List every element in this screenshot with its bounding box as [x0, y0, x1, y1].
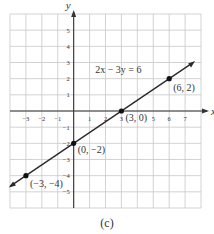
data-point [167, 76, 172, 81]
data-point [71, 141, 76, 146]
y-tick-label: 2 [66, 75, 69, 82]
equation-label: 2x − 3y = 6 [95, 64, 141, 75]
y-tick-label: −3 [63, 156, 70, 163]
x-tick-label: 1 [88, 115, 91, 122]
y-axis-arrow-icon [71, 10, 76, 17]
point-label: (3, 0) [125, 112, 147, 124]
y-tick-label: −4 [63, 172, 71, 179]
y-tick-label: −1 [63, 124, 70, 131]
x-tick-label: 5 [152, 115, 155, 122]
y-axis-label: y [65, 0, 71, 11]
x-axis-arrow-icon [202, 109, 209, 114]
point-label: (0, −2) [78, 144, 105, 156]
y-tick-label: 5 [66, 27, 69, 34]
point-labels: (−3, −4)(0, −2)(3, 0)(6, 2)2x − 3y = 6 [30, 64, 195, 190]
point-label: (6, 2) [173, 82, 195, 94]
x-tick-label: −2 [38, 115, 45, 122]
figure-caption: (c) [0, 216, 214, 231]
x-tick-label: 3 [120, 115, 123, 122]
line-arrow-icon [188, 61, 195, 68]
x-tick-label: −3 [22, 115, 29, 122]
x-tick-label: 6 [168, 115, 172, 122]
data-point [119, 108, 124, 113]
y-tick-label: 3 [66, 59, 69, 66]
y-tick-label: −5 [63, 188, 70, 195]
line-2x-3y-6 [10, 64, 191, 187]
data-series [9, 61, 195, 187]
x-tick-label: −1 [54, 115, 61, 122]
x-tick-label: 7 [183, 115, 187, 122]
point-label: (−3, −4) [30, 178, 63, 190]
y-tick-label: −2 [63, 140, 70, 147]
data-point [23, 173, 28, 178]
x-axis-label: x [210, 105, 214, 117]
y-tick-label: 1 [66, 91, 69, 98]
graph: xy −3−2−112356754321−1−2−3−4−5 (−3, −4)(… [0, 0, 214, 214]
